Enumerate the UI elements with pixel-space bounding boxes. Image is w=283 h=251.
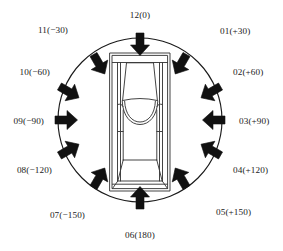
figure-root: 12(0)01(+30)02(+60)03(+90)04(+120)05(+15… xyxy=(0,0,283,251)
car-hood-left-edge xyxy=(123,63,127,101)
direction-label-03: 03(+90) xyxy=(239,117,269,126)
direction-arrow-01 xyxy=(167,50,195,79)
direction-label-06: 06(180) xyxy=(125,231,155,240)
direction-arrow-12 xyxy=(131,33,150,56)
car-roof-dome-inner xyxy=(125,101,156,122)
arrow-glyph-icon xyxy=(196,78,225,106)
direction-label-05: 05(+150) xyxy=(216,208,251,217)
car-rear-corner-left xyxy=(112,181,117,189)
direction-label-11: 11(−30) xyxy=(38,26,68,35)
direction-arrow-07 xyxy=(85,163,113,192)
direction-label-01: 01(+30) xyxy=(220,27,250,36)
arrow-glyph-icon xyxy=(55,78,84,106)
arrow-glyph-icon xyxy=(196,136,225,164)
car-hood-right-edge xyxy=(154,63,158,101)
arrow-glyph-icon xyxy=(167,163,195,192)
direction-arrow-04 xyxy=(196,136,225,164)
direction-label-04: 04(+120) xyxy=(233,166,268,175)
arrow-glyph-icon xyxy=(131,187,150,210)
arrow-glyph-icon xyxy=(167,50,195,79)
direction-arrow-05 xyxy=(167,163,195,192)
direction-label-10: 10(−60) xyxy=(20,68,50,77)
arrow-glyph-icon xyxy=(85,50,113,79)
direction-label-09: 09(−90) xyxy=(14,117,44,126)
direction-arrow-06 xyxy=(131,187,150,210)
direction-arrow-layer xyxy=(55,33,226,209)
car-rear-corner-right xyxy=(162,181,167,189)
direction-arrow-08 xyxy=(55,136,84,164)
arrow-glyph-icon xyxy=(85,163,113,192)
direction-arrow-02 xyxy=(196,78,225,106)
direction-label-02: 02(+60) xyxy=(233,68,263,77)
direction-label-12: 12(0) xyxy=(130,11,150,20)
direction-label-08: 08(−120) xyxy=(17,166,52,175)
car-windshield-curve xyxy=(123,99,158,101)
direction-arrow-10 xyxy=(55,78,84,106)
direction-label-07: 07(−150) xyxy=(50,211,85,220)
arrow-glyph-icon xyxy=(131,33,150,56)
direction-arrow-11 xyxy=(85,50,113,79)
car-top-view xyxy=(110,53,170,191)
arrow-glyph-icon xyxy=(55,136,84,164)
